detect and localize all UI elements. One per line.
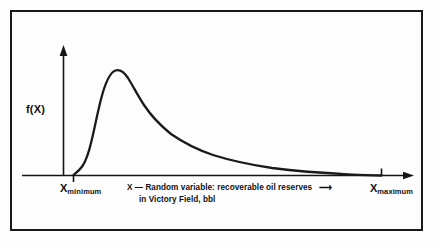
x-max-label-subscript: maximum <box>377 187 413 196</box>
x-axis-arrowhead <box>403 172 414 179</box>
x-axis-caption: X — Random variable: recoverable oil res… <box>127 182 357 205</box>
density-curve <box>74 70 382 175</box>
y-axis-label: f(X) <box>26 104 45 116</box>
y-axis-arrowhead <box>60 45 68 56</box>
figure-container: f(X) Xminimum Xmaximum X — Random variab… <box>0 0 437 247</box>
x-axis-max-label: Xmaximum <box>370 183 413 195</box>
x-axis-min-label: Xminimum <box>60 183 101 195</box>
caption-line-2: in Victory Field, bbl <box>127 194 357 206</box>
plot-area <box>0 0 437 247</box>
caption-arrow-icon: ⟶ <box>312 182 331 194</box>
x-min-label-subscript: minimum <box>67 187 101 196</box>
caption-line-1: X — Random variable: recoverable oil res… <box>127 183 312 192</box>
